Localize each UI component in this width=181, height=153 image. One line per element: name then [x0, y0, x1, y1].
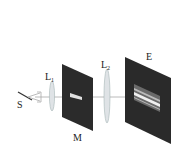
label-lens2-sub: 2	[107, 65, 110, 71]
lens-l2	[104, 69, 110, 123]
label-mask: M	[73, 132, 82, 143]
optics-diagram: S L 1 M L 2 E	[0, 0, 181, 153]
label-screen: E	[146, 51, 152, 62]
label-lens1-sub: 1	[51, 77, 54, 83]
lens-l1	[49, 81, 54, 111]
label-source: S	[17, 99, 23, 110]
